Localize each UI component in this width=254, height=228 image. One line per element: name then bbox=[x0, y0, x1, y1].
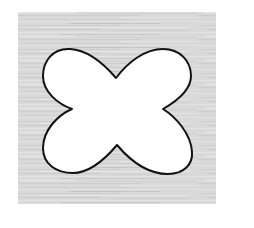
figure bbox=[0, 0, 254, 228]
diagram-canvas bbox=[0, 0, 254, 228]
